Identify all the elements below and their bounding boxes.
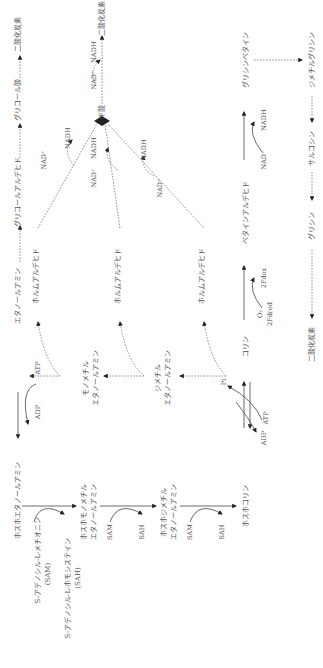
cofactor-fdred: 2Fdred [266,302,274,326]
node-phosphomonomethylethanolamine-line1: ホスホモノメチル [80,484,88,540]
node-formaldehyde-1: ホルムアルデヒド [31,248,40,304]
node-monomethylethanolamine-line2: エタノールアミン [91,350,100,406]
node-monomethylethanolamine-line1: モノメチル [82,361,90,396]
cofactor-nadh-formate: NADH [90,41,98,63]
node-phosphodimethylethanolamine-line2: エタノールアミン [169,484,178,540]
node-formaldehyde-3: ホルムアルデヒド [197,248,206,304]
node-co2-top: 二酸化炭素 [13,17,22,52]
node-ethanolamine: エタノールアミン [13,268,22,324]
cofactor-nadh-form2: NADH [140,139,148,161]
cofactor-fdox: 2Fdox [260,267,268,288]
cofactor-pi: Pi [220,379,228,385]
cofactor-nadh-betaine: NADH [260,109,268,131]
cofactor-sah-2: SAH [138,524,146,539]
cofactor-nad-glycolald: NAD⁺ [40,150,48,169]
cofactor-nadh-glycolald: NADH [64,127,72,149]
node-choline: コリン [242,336,250,357]
node-glycolic-acid: グリコール酸 [13,79,22,121]
node-glycine-betaine: グリシンベタイン [241,32,250,88]
cofactor-adp-2: ADP [260,430,268,446]
node-betaine-aldehyde: ベタインアルデヒド [241,181,250,244]
node-phosphodimethylethanolamine-line1: ホスホジメチル [160,488,168,537]
betaine-pathway [244,60,302,320]
node-glycine: グリシン [307,212,316,240]
node-co2-bottom: 二酸化炭素 [307,327,316,362]
node-formaldehyde-2: ホルムアルデヒド [113,248,122,304]
cofactor-sam-2: SAM [106,524,114,540]
cofactor-o2: O₂ [256,310,264,318]
free-base-pathway [30,322,226,376]
cofactor-nad-betaine: NAD⁺ [260,150,268,169]
formaldehyde-oxidation [38,36,204,228]
phospho-methylation-pathway [18,382,262,522]
cofactor-nad-formate: NAD⁺ [90,70,98,89]
node-dimethylethanolamine-line1: ジメチル [154,364,162,392]
node-sam-abbr: (SAM) [44,562,52,585]
node-phosphomonomethylethanolamine-line2: エタノールアミン [89,484,98,540]
node-dimethylethanolamine-line2: エタノールアミン [163,350,172,406]
node-sah: S-アデノシル-L-ホモシステイン [63,538,72,639]
node-phosphocholine: ホスホコリン [242,485,250,527]
cofactor-sam-3: SAM [186,524,194,540]
cofactor-atp-2: ATP [262,411,270,426]
node-glycolaldehyde: グリコールアルデヒド [13,157,22,227]
node-sah-abbr: (SAH) [74,567,82,589]
cofactor-labels: ATP ADP SAM SAH SAM SAH Pi ATP ADP O₂ 2F… [34,41,274,540]
node-sam: S-アデノシル-L-メチオニン [33,517,42,604]
cofactor-adp-1: ADP [34,404,42,420]
cofactor-sah-3: SAH [218,524,226,539]
cofactor-nadh-form1: NADH [90,137,98,159]
node-dimethylglycine: ジメチルグリシン [307,32,316,88]
cofactor-nad-form1: NAD⁺ [90,168,98,187]
cofactor-nad-form2: NAD⁺ [156,178,164,197]
node-co2-formate: 二酸化炭素 [97,1,106,36]
node-formic-acid: ギ酸 [97,105,106,119]
node-sarcosine: サルコシン [308,131,316,166]
node-phosphoethanolamine: ホスホエタノールアミン [13,462,22,539]
metabolic-pathway-diagram: ホスホエタノールアミン S-アデノシル-L-メチオニン (SAM) S-アデノシ… [0,0,323,668]
cofactor-atp-1: ATP [34,361,42,376]
